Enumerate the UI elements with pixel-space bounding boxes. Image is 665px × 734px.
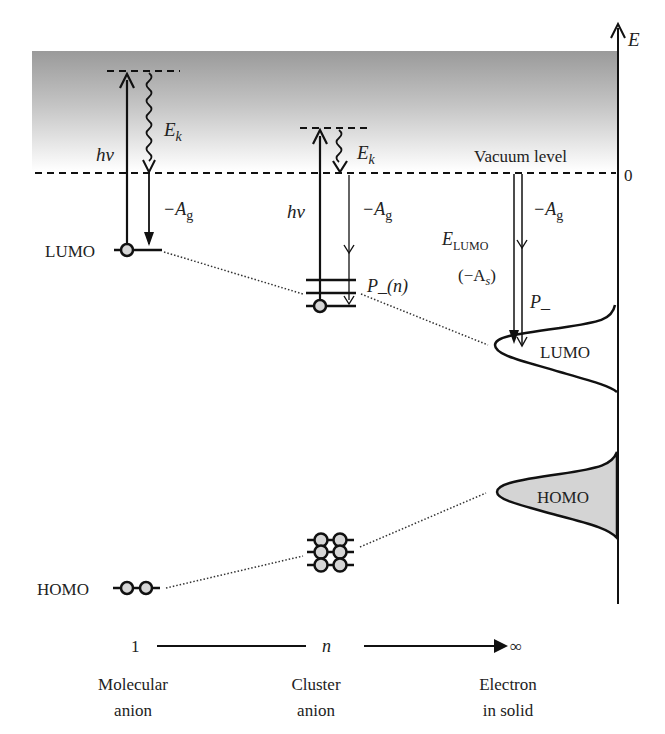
solid-ag-label: −Ag <box>533 199 563 223</box>
solid-column: −Ag ELUMO (−As) P_ LUMO HOMO <box>441 174 617 538</box>
molecular-hv-label: hv <box>96 144 115 165</box>
category-cluster-line2: anion <box>297 701 335 720</box>
molecular-lumo-label: LUMO <box>45 242 95 261</box>
cluster-polarization-label: P_(n) <box>366 276 408 297</box>
category-cluster-line1: Cluster <box>291 675 340 694</box>
energy-axis-label: E <box>627 29 640 50</box>
solid-as-label: (−As) <box>458 266 496 288</box>
molecular-lumo-orbital <box>121 244 133 256</box>
cluster-anion-column: hv Ek −Ag P_(n) <box>287 128 408 572</box>
zero-label: 0 <box>624 166 633 185</box>
size-axis-middle: n <box>322 636 331 656</box>
vacuum-level-label: Vacuum level <box>474 147 567 166</box>
cluster-lumo-orbital <box>314 300 326 312</box>
category-molecular-line2: anion <box>114 701 152 720</box>
size-axis-end: ∞ <box>510 637 522 656</box>
molecular-homo-orbital-1 <box>121 582 133 594</box>
size-axis-start: 1 <box>131 637 140 656</box>
cluster-hv-label: hv <box>287 201 306 222</box>
cluster-ag-label: −Ag <box>362 199 392 223</box>
category-solid-line1: Electron <box>479 675 537 694</box>
energy-level-diagram: E 0 Vacuum level hv Ek −Ag LUMO HOMO h <box>0 0 665 734</box>
category-molecular-line1: Molecular <box>98 675 168 694</box>
solid-p-label: P_ <box>529 292 551 312</box>
cluster-homo-orbitals <box>307 534 354 572</box>
molecular-homo-orbital-2 <box>140 582 152 594</box>
category-solid-line2: in solid <box>483 701 534 720</box>
homo-band-label: HOMO <box>537 488 589 507</box>
size-axis: 1 n ∞ Molecular anion Cluster anion Elec… <box>98 636 537 720</box>
molecular-homo-label: HOMO <box>37 580 89 599</box>
molecular-ag-label: −Ag <box>163 199 193 223</box>
solid-elumo-label: ELUMO <box>441 229 489 253</box>
lumo-band-label: LUMO <box>540 343 590 362</box>
